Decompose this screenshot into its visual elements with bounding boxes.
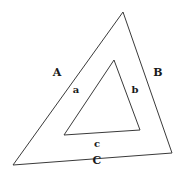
triangles-figure: A B C a b c <box>0 0 187 178</box>
outer-triangle-shape <box>13 12 172 165</box>
inner-side-label-c: c <box>94 139 100 149</box>
outer-side-label-a: A <box>53 67 62 78</box>
inner-side-label-a: a <box>73 85 79 95</box>
outer-side-label-b: B <box>153 67 162 78</box>
inner-side-label-b: b <box>132 85 139 95</box>
triangles-canvas <box>0 0 187 178</box>
inner-triangle-shape <box>64 60 140 135</box>
outer-side-label-c: C <box>93 155 102 166</box>
